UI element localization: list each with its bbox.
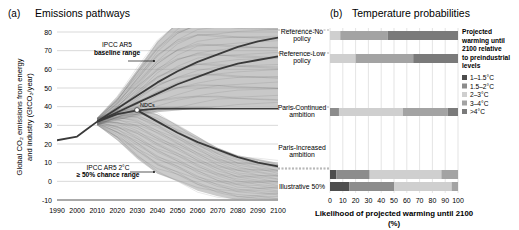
legend-title-line: to preindustrial xyxy=(462,54,510,62)
legend-swatch xyxy=(462,75,467,80)
x-tick-label: 2000 xyxy=(69,207,85,214)
panel-b-label: (b) xyxy=(330,8,342,19)
x-tick-label: 0 xyxy=(328,197,332,204)
legend-swatch xyxy=(462,101,467,106)
legend-title-line: Projected xyxy=(462,28,492,36)
x-tick-label: 90 xyxy=(441,197,449,204)
bar-segment xyxy=(330,54,356,63)
ylabel-line2: and industry (GtCO₂/year) xyxy=(25,73,34,161)
legend-label: 1–1.5°C xyxy=(470,74,494,81)
x-tick-label: 2050 xyxy=(170,207,186,214)
panel-a-ylabel: Global CO₂ emissions from energy and ind… xyxy=(15,58,34,175)
bar-segment xyxy=(441,170,458,179)
x-tick-label: 2070 xyxy=(210,207,226,214)
legend-title-line: levels xyxy=(462,62,481,69)
x-tick-label: 100 xyxy=(452,197,464,204)
panel-a-title: Emissions pathways xyxy=(35,7,130,19)
legend-title-line: warming until xyxy=(461,37,505,45)
twoc-label-1: IPCC AR5 2°C xyxy=(87,164,130,171)
bar-segment xyxy=(394,182,452,191)
legend-label: 1.5–2°C xyxy=(470,83,494,90)
bar-segment xyxy=(388,31,458,40)
twoc-annotation: IPCC AR5 2°C ≥ 50% chance range xyxy=(77,164,156,179)
y-tick-label: 40 xyxy=(44,103,52,110)
row-label: Paris-Continued xyxy=(278,104,327,111)
panel-b-legend: Projectedwarming until2100 relativeto pr… xyxy=(461,28,510,115)
baseline-label-2: baseline range xyxy=(94,49,141,57)
bar-segment xyxy=(330,170,336,179)
legend-title-line: 2100 relative xyxy=(462,45,502,52)
x-tick-label: 2040 xyxy=(150,207,166,214)
x-tick-label: 60 xyxy=(403,197,411,204)
row-label: ambition xyxy=(289,111,315,118)
x-tick-label: 2020 xyxy=(109,207,125,214)
x-tick-label: 1990 xyxy=(49,207,65,214)
row-label: policy xyxy=(293,57,311,65)
bar-segment xyxy=(330,108,339,116)
bar-segment xyxy=(336,170,369,179)
twoc-range-band xyxy=(97,107,278,200)
panel-b-xlabel-2: (%) xyxy=(388,219,401,228)
row-label: Illustrative 50% xyxy=(279,183,325,190)
panel-b-plot: 0102030405060708090100Reference-Nopolicy… xyxy=(278,28,464,204)
x-tick-label: 2100 xyxy=(270,207,286,214)
bar-segment xyxy=(356,54,414,63)
y-tick-label: -10 xyxy=(42,197,52,204)
ndcs-marker xyxy=(135,108,140,113)
x-tick-label: 80 xyxy=(429,197,437,204)
x-tick-label: 40 xyxy=(377,197,385,204)
x-tick-label: 2010 xyxy=(89,207,105,214)
bar-segment xyxy=(403,108,448,116)
x-tick-label: 30 xyxy=(365,197,373,204)
row-label: ambition xyxy=(289,151,315,158)
row-label: Reference-Low xyxy=(279,50,325,57)
figure: (a) Emissions pathways Global CO₂ emissi… xyxy=(0,0,519,230)
y-tick-label: 80 xyxy=(44,29,52,36)
x-tick-label: 2090 xyxy=(250,207,266,214)
ylabel-line1: Global CO₂ emissions from energy xyxy=(15,58,24,175)
legend-label: 2–3°C xyxy=(470,91,489,98)
x-tick-label: 10 xyxy=(339,197,347,204)
ndcs-label: NDCs xyxy=(140,102,155,108)
baseline-label-1: IPCC AR5 xyxy=(102,41,132,48)
legend-swatch xyxy=(462,84,467,89)
row-label: Reference-No xyxy=(281,28,324,35)
y-tick-label: 50 xyxy=(44,85,52,92)
row-label: Paris-Increased xyxy=(278,144,326,151)
bar-segment xyxy=(452,182,458,191)
y-tick-label: 70 xyxy=(44,47,52,54)
y-tick-label: 10 xyxy=(44,159,52,166)
bar-segment xyxy=(330,31,340,40)
row-label: policy xyxy=(293,35,311,43)
figure-canvas: (a) Emissions pathways Global CO₂ emissi… xyxy=(0,0,519,230)
bar-segment xyxy=(340,31,387,40)
bar-segment xyxy=(330,182,349,191)
bar-segment xyxy=(339,108,403,116)
x-tick-label: 70 xyxy=(416,197,424,204)
bar-segment xyxy=(448,108,458,116)
x-tick-label: 50 xyxy=(390,197,398,204)
x-tick-label: 2060 xyxy=(190,207,206,214)
y-tick-label: 60 xyxy=(44,66,52,73)
y-tick-label: 20 xyxy=(44,141,52,148)
x-tick-label: 2030 xyxy=(130,207,146,214)
series-line-0 xyxy=(57,122,97,141)
legend-label: 3–4°C xyxy=(470,100,489,107)
legend-swatch xyxy=(462,92,467,97)
twoc-pointer-dot xyxy=(153,171,155,173)
bar-segment xyxy=(370,170,442,179)
legend-swatch xyxy=(462,109,467,114)
baseline-pointer-dot xyxy=(153,60,155,62)
bar-segment xyxy=(349,182,394,191)
panel-b-title: Temperature probabilities xyxy=(352,7,470,19)
panel-b-xlabel-1: Likelihood of projected warming until 21… xyxy=(315,209,474,218)
y-tick-label: 0 xyxy=(48,178,52,185)
x-tick-label: 2080 xyxy=(230,207,246,214)
x-tick-label: 20 xyxy=(352,197,360,204)
panel-a-label: (a) xyxy=(8,8,20,19)
y-tick-label: 30 xyxy=(44,122,52,129)
bar-segment xyxy=(413,54,458,63)
legend-label: >4°C xyxy=(470,108,485,115)
